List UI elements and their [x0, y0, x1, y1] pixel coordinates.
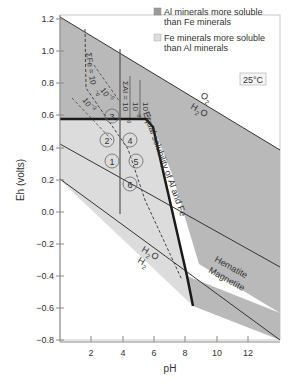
svg-text:1: 1 [109, 157, 114, 167]
legend-swatch-al [154, 8, 161, 15]
y-tick-label: 0.0 [41, 207, 54, 217]
eh-ph-diagram: 1.2 1.0 0.8 0.6 0.4 0.2 0.0 −0.2 −0.4 −0… [0, 0, 295, 384]
svg-text:−8: −8 [136, 111, 142, 117]
x-ticks [91, 336, 248, 342]
svg-text:3: 3 [109, 112, 114, 122]
legend-label-fe-1: Fe minerals more soluble [164, 33, 265, 43]
y-tick-label: 1.2 [41, 14, 54, 24]
x-tick-label: 10 [212, 348, 222, 358]
y-tick-label: −0.2 [36, 239, 54, 249]
x-tick-labels: 2 4 6 8 10 12 [88, 348, 253, 358]
svg-text:ΣAl = 10: ΣAl = 10 [121, 81, 130, 112]
y-tick-label: 0.2 [41, 175, 54, 185]
legend-label-al-2: than Fe minerals [164, 17, 232, 27]
legend: Al minerals more soluble than Fe mineral… [154, 7, 265, 53]
x-tick-label: 12 [243, 348, 253, 358]
x-tick-label: 4 [120, 348, 125, 358]
y-tick-label: 0.6 [41, 110, 54, 120]
temperature-label: 25°C [243, 75, 264, 85]
svg-text:5: 5 [133, 157, 138, 167]
legend-swatch-fe [154, 34, 161, 41]
y-tick-label: 0.8 [41, 78, 54, 88]
svg-text:4: 4 [127, 136, 132, 146]
y-tick-label: 1.0 [41, 46, 54, 56]
svg-text:−10: −10 [146, 111, 152, 120]
legend-label-al-1: Al minerals more soluble [164, 7, 263, 17]
legend-label-fe-2: than Al minerals [164, 43, 229, 53]
x-axis-label: pH [164, 363, 177, 374]
svg-text:6: 6 [127, 180, 132, 190]
y-tick-labels: 1.2 1.0 0.8 0.6 0.4 0.2 0.0 −0.2 −0.4 −0… [36, 14, 54, 345]
y-tick-label: −0.4 [36, 271, 54, 281]
x-tick-label: 8 [182, 348, 187, 358]
y-axis-label: Eh (volts) [15, 159, 26, 201]
svg-text:2: 2 [104, 136, 109, 146]
y-tick-label: −0.6 [36, 303, 54, 313]
y-tick-label: −0.8 [36, 335, 54, 345]
svg-text:−6: −6 [126, 117, 132, 123]
y-tick-label: 0.4 [41, 143, 54, 153]
x-tick-label: 6 [151, 348, 156, 358]
x-tick-label: 2 [88, 348, 93, 358]
